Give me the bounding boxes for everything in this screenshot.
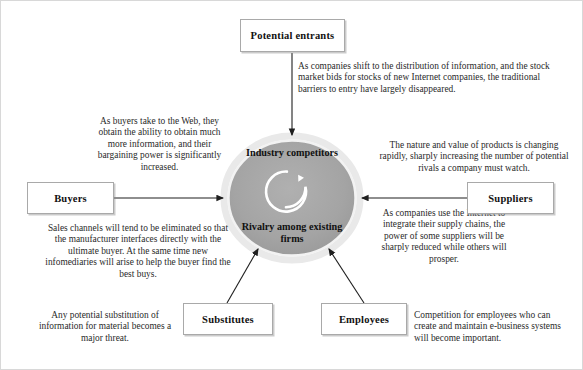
box-label-employees: Employees <box>339 314 389 325</box>
note-suppliers: As companies use the Internet to integra… <box>379 208 509 265</box>
box-label-buyers: Buyers <box>54 193 87 204</box>
box-potential-entrants[interactable]: Potential entrants <box>240 19 345 52</box>
box-substitutes[interactable]: Substitutes <box>183 303 273 335</box>
note-employees: Competition for employees who can create… <box>414 310 574 344</box>
note-potential-entrants: As companies shift to the distribution o… <box>298 61 552 95</box>
center-circle-labels: Industry competitors Rivalry among exist… <box>227 147 357 251</box>
note-substitution: Any potential substitution of informatio… <box>31 310 179 344</box>
box-label-potential-entrants: Potential entrants <box>251 30 335 41</box>
box-label-substitutes: Substitutes <box>202 314 254 325</box>
box-buyers[interactable]: Buyers <box>27 182 114 214</box>
note-substitutes: The nature and value of products is chan… <box>375 140 573 174</box>
diagram-canvas: Potential entrants Buyers Suppliers Subs… <box>0 0 583 370</box>
note-buyers-channels: Sales channels will tend to be eliminate… <box>43 223 233 280</box>
connector-employees <box>329 249 364 303</box>
box-label-suppliers: Suppliers <box>488 193 532 204</box>
center-bottom-label: Rivalry among existing firms <box>227 221 357 245</box>
center-top-label: Industry competitors <box>227 147 357 159</box>
box-suppliers[interactable]: Suppliers <box>467 182 554 214</box>
box-employees[interactable]: Employees <box>321 303 407 335</box>
note-buyers-power: As buyers take to the Web, they obtain t… <box>94 116 225 173</box>
